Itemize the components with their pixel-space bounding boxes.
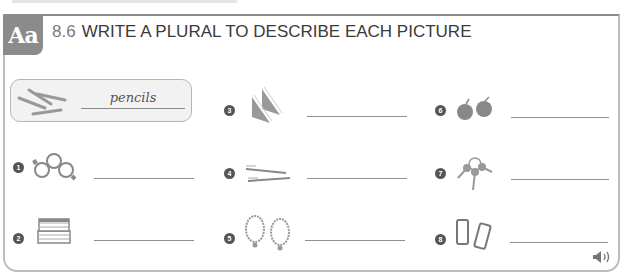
keys-icon (455, 154, 495, 194)
sandwiches-icon (250, 85, 285, 125)
exercise-instruction: WRITE A PLURAL TO DESCRIBE EACH PICTURE (82, 22, 472, 41)
item-number-7: 7 (435, 168, 446, 179)
answer-line-3[interactable] (307, 116, 407, 117)
item-number-5: 5 (224, 233, 235, 244)
item-number-8: 8 (435, 234, 446, 245)
watches-icon (32, 150, 77, 182)
toothbrushes-icon (244, 164, 294, 186)
top-strip (12, 0, 237, 3)
item-number-4: 4 (224, 168, 235, 179)
necklaces-icon (244, 213, 294, 255)
example-answer: pencils (81, 90, 185, 109)
vocabulary-badge: Aa (3, 15, 43, 55)
answer-line-8[interactable] (510, 242, 608, 243)
answer-line-5[interactable] (305, 240, 405, 241)
exercise-box (3, 14, 620, 272)
answer-line-1[interactable] (94, 178, 194, 179)
exercise-title: 8.6WRITE A PLURAL TO DESCRIBE EACH PICTU… (52, 22, 471, 42)
books-icon (35, 215, 75, 247)
item-number-6: 6 (435, 105, 446, 116)
exercise-number: 8.6 (52, 22, 76, 41)
apples-icon (455, 95, 495, 123)
answer-line-2[interactable] (94, 240, 194, 241)
phones-icon (455, 218, 500, 254)
item-number-1: 1 (13, 162, 24, 173)
item-number-2: 2 (13, 233, 24, 244)
example-box: pencils (10, 79, 192, 122)
answer-line-7[interactable] (511, 179, 609, 180)
item-number-3: 3 (224, 105, 235, 116)
answer-line-6[interactable] (511, 117, 609, 118)
speaker-icon[interactable] (592, 250, 614, 264)
answer-line-4[interactable] (307, 178, 407, 179)
pencils-icon (15, 86, 75, 116)
